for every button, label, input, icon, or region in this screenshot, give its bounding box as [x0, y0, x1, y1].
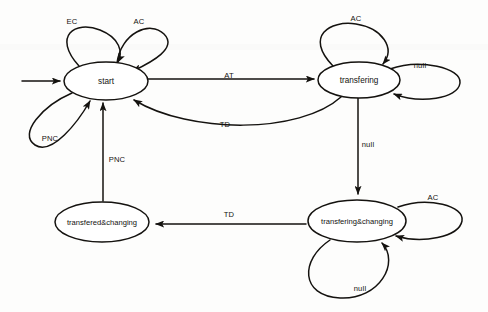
edge-label-tc-to-tdc-td: TD [224, 210, 235, 219]
edge-label-transfering-self-null: null [414, 61, 427, 70]
edge-start-self-ec [67, 27, 120, 66]
node-start-label: start [98, 77, 115, 86]
edge-label-start-to-transfering-at: AT [224, 71, 234, 80]
edge-tc-self-null [309, 240, 389, 298]
edge-transfering-self-ac [320, 23, 388, 66]
edge-label-start-self-ec: EC [67, 17, 78, 26]
edge-start-self-pnc [29, 93, 90, 147]
edge-transfering-to-start-td [134, 97, 341, 125]
node-transfered-changing-label: transfered&changing [67, 218, 137, 227]
edge-label-transfering-to-tc-null: null [362, 140, 375, 149]
state-diagram-canvas: start transfering transfered&changing tr… [0, 0, 488, 312]
edge-label-start-self-pnc: PNC [42, 134, 59, 143]
state-diagram-svg: start transfering transfered&changing tr… [0, 0, 488, 312]
edge-label-start-self-ac: AC [134, 17, 145, 26]
edge-label-tc-self-null: null [354, 284, 367, 293]
node-transfering-changing-label: transfering&changing [321, 217, 393, 226]
edge-label-transfering-self-ac: AC [351, 14, 362, 23]
edge-label-tc-self-ac: AC [428, 193, 439, 202]
edge-label-tdc-to-start-pnc: PNC [109, 155, 126, 164]
node-transfering-label: transfering [340, 76, 379, 85]
edge-label-transfering-to-start-td: TD [220, 120, 231, 129]
